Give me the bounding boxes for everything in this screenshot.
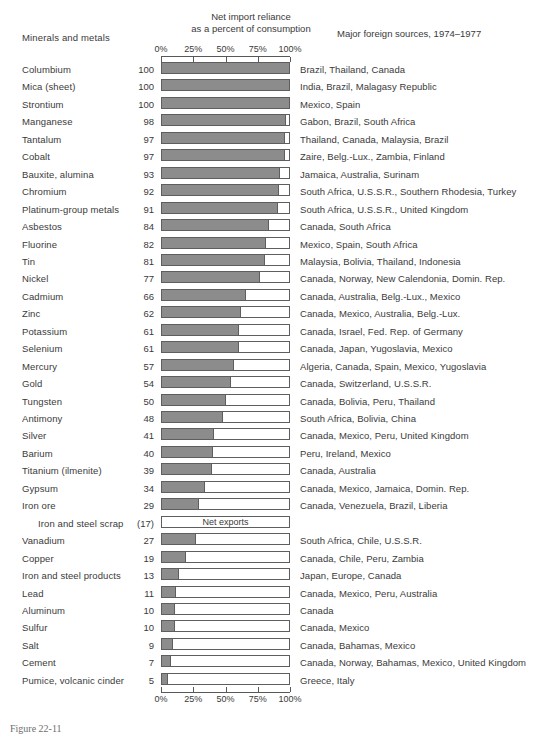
chart-row: Nickel77Canada, Norway, New Calendonia, … — [0, 271, 554, 286]
row-value: 91 — [108, 204, 154, 215]
row-label-mineral: Antimony — [22, 413, 62, 424]
chart-row: Iron and steel products13Japan, Europe, … — [0, 568, 554, 583]
axis-tick-label: 75% — [249, 694, 267, 704]
row-bar-track — [161, 655, 290, 667]
row-label-mineral: Chromium — [22, 186, 67, 197]
row-bar-fill — [162, 499, 199, 509]
row-value: (17) — [108, 518, 154, 529]
chart-row: Iron and steel scrap(17)Net exports — [0, 516, 554, 531]
row-foreign-sources: Canada, Israel, Fed. Rep. of Germany — [300, 326, 463, 337]
row-foreign-sources: Canada — [300, 605, 334, 616]
axis-tick-label: 100% — [278, 44, 301, 54]
row-foreign-sources: Canada, Norway, New Calendonia, Domin. R… — [300, 273, 505, 284]
row-foreign-sources: India, Brazil, Malagasy Republic — [300, 81, 437, 92]
row-label-mineral: Aluminum — [22, 605, 65, 616]
row-foreign-sources: Brazil, Thailand, Canada — [300, 64, 405, 75]
row-label-mineral: Asbestos — [22, 221, 62, 232]
row-label-mineral: Silver — [22, 430, 46, 441]
chart-row: Titanium (ilmenite)39Canada, Australia — [0, 463, 554, 478]
row-label-mineral: Strontium — [22, 99, 64, 110]
row-bar-track — [161, 376, 290, 388]
row-value: 100 — [108, 64, 154, 75]
row-label-mineral: Tantalum — [22, 134, 61, 145]
row-bar-track — [161, 638, 290, 650]
row-label-mineral: Tungsten — [22, 396, 62, 407]
axis-tick-labels-bottom: 0%25%50%75%100% — [0, 694, 554, 706]
row-bar-fill — [162, 255, 265, 265]
row-bar-track — [161, 341, 290, 353]
chart-row: Lead11Canada, Mexico, Peru, Australia — [0, 586, 554, 601]
chart-row: Mica (sheet)100India, Brazil, Malagasy R… — [0, 79, 554, 94]
row-label-mineral: Cement — [22, 657, 56, 668]
row-bar-track — [161, 62, 290, 74]
row-bar-fill — [162, 482, 205, 492]
chart-row: Vanadium27South Africa, Chile, U.S.S.R. — [0, 533, 554, 548]
row-value: 34 — [108, 483, 154, 494]
row-bar-fill — [162, 464, 212, 474]
row-bar-track — [161, 114, 290, 126]
row-bar-track — [161, 463, 290, 475]
row-bar-track — [161, 97, 290, 109]
row-bar-fill — [162, 412, 223, 422]
axis-tick-label: 50% — [216, 44, 234, 54]
column-header-minerals: Minerals and metals — [22, 32, 110, 43]
row-bar-track — [161, 324, 290, 336]
axis-tick — [258, 687, 259, 692]
row-bar-track — [161, 149, 290, 161]
row-bar-track — [161, 289, 290, 301]
row-foreign-sources: Canada, South Africa — [300, 221, 391, 232]
row-value: 10 — [108, 605, 154, 616]
axis-tick — [226, 687, 227, 692]
chart-row: Potassium61Canada, Israel, Fed. Rep. of … — [0, 324, 554, 339]
axis-tick-label: 0% — [154, 44, 167, 54]
row-foreign-sources: Algeria, Canada, Spain, Mexico, Yugoslav… — [300, 361, 486, 372]
chart-row: Strontium100Mexico, Spain — [0, 97, 554, 112]
row-label-mineral: Nickel — [22, 273, 48, 284]
row-bar-fill — [162, 342, 239, 352]
row-foreign-sources: Zaire, Belg.-Lux., Zambia, Finland — [300, 151, 445, 162]
chart-row: Asbestos84Canada, South Africa — [0, 219, 554, 234]
axis-tick-label: 75% — [249, 44, 267, 54]
row-foreign-sources: Canada, Australia — [300, 465, 376, 476]
row-bar-fill — [162, 185, 279, 195]
chart-row: Selenium61Canada, Japan, Yugoslavia, Mex… — [0, 341, 554, 356]
row-foreign-sources: Canada, Mexico — [300, 622, 369, 633]
row-label-mineral: Manganese — [22, 116, 73, 127]
chart-row: Tungsten50Canada, Bolivia, Peru, Thailan… — [0, 394, 554, 409]
chart-row: Gypsum34Canada, Mexico, Jamaica, Domin. … — [0, 481, 554, 496]
row-foreign-sources: Gabon, Brazil, South Africa — [300, 116, 415, 127]
row-value: 29 — [108, 500, 154, 511]
row-bar-track — [161, 254, 290, 266]
chart-row: Cement7Canada, Norway, Bahamas, Mexico, … — [0, 655, 554, 670]
chart-row: Antimony48South Africa, Bolivia, China — [0, 411, 554, 426]
row-bar-track — [161, 394, 290, 406]
row-foreign-sources: Peru, Ireland, Mexico — [300, 448, 391, 459]
row-value: 100 — [108, 99, 154, 110]
row-label-mineral: Iron ore — [22, 500, 56, 511]
row-bar-track — [161, 79, 290, 91]
row-foreign-sources: Canada, Chile, Peru, Zambia — [300, 553, 424, 564]
row-value: 62 — [108, 308, 154, 319]
row-bar-track — [161, 673, 290, 685]
row-label-mineral: Gypsum — [22, 483, 58, 494]
row-label-mineral: Selenium — [22, 343, 62, 354]
row-label-mineral: Mercury — [22, 361, 57, 372]
row-bar-track — [161, 167, 290, 179]
row-bar-fill — [162, 150, 285, 160]
row-foreign-sources: Canada, Mexico, Peru, Australia — [300, 588, 437, 599]
row-foreign-sources: Canada, Japan, Yugoslavia, Mexico — [300, 343, 453, 354]
row-bar-note: Net exports — [162, 517, 289, 527]
chart-row: Gold54Canada, Switzerland, U.S.S.R. — [0, 376, 554, 391]
chart-row: Fluorine82Mexico, Spain, South Africa — [0, 237, 554, 252]
row-foreign-sources: Canada, Bahamas, Mexico — [300, 640, 415, 651]
row-value: 61 — [108, 343, 154, 354]
axis-tick-label: 25% — [184, 694, 202, 704]
import-reliance-chart: Minerals and metals Net import reliance … — [0, 0, 554, 734]
chart-row: Chromium92South Africa, U.S.S.R., Southe… — [0, 184, 554, 199]
row-bar-track — [161, 568, 290, 580]
row-bar-track — [161, 446, 290, 458]
column-header-foreign-sources: Major foreign sources, 1974–1977 — [337, 28, 481, 39]
row-value: 9 — [108, 640, 154, 651]
row-value: 98 — [108, 116, 154, 127]
chart-row: Silver41Canada, Mexico, Peru, United Kin… — [0, 428, 554, 443]
